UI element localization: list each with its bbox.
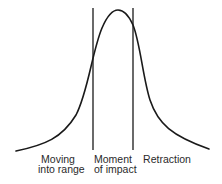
phase-label-line2: into range [38, 164, 78, 174]
phase-label-moment-of-impact: Moment of impact [94, 154, 132, 174]
phase-label-line1: Retraction [142, 154, 192, 164]
phase-label-retraction: Retraction [142, 154, 192, 164]
phase-label-line2: of impact [94, 164, 132, 174]
bell-curve [16, 10, 209, 151]
phase-label-moving-into-range: Moving into range [38, 154, 78, 174]
